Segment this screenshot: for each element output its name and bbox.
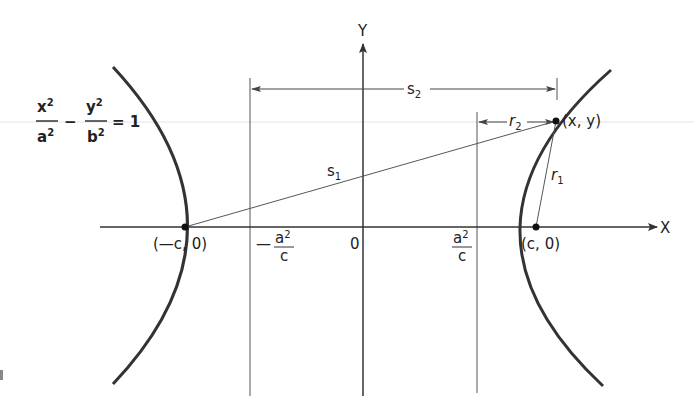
- hyperbola-equation: x2 a2 − y2 b2 = 1: [36, 97, 140, 146]
- y-axis-label: Y: [357, 22, 368, 40]
- r1-label: r1: [551, 166, 564, 186]
- svg-text:−: −: [64, 113, 77, 131]
- svg-text:x2: x2: [37, 97, 54, 116]
- right-focus-label: (c, 0): [521, 235, 560, 253]
- svg-text:a2: a2: [275, 229, 291, 247]
- origin-label: 0: [350, 235, 360, 253]
- curve-point: [553, 118, 560, 125]
- hyperbola-diagram: Y X s2 r2 s1 r1 (—c, 0) (c, 0) (x, y) 0 …: [0, 0, 694, 411]
- svg-text:a2: a2: [37, 127, 54, 146]
- left-directrix-label: — a2 c: [256, 229, 294, 265]
- right-focus-point: [533, 224, 540, 231]
- x-axis-label: X: [660, 219, 670, 237]
- s1-label: s1: [327, 162, 341, 182]
- svg-text:c: c: [280, 247, 288, 265]
- left-focus-label: (—c, 0): [153, 235, 207, 253]
- edge-mark: [0, 370, 3, 380]
- right-directrix-label: a2 c: [452, 229, 472, 265]
- s1-line: [185, 121, 556, 227]
- svg-text:y2: y2: [86, 97, 103, 116]
- curve-point-label: (x, y): [562, 112, 601, 130]
- svg-text:—: —: [256, 235, 271, 253]
- svg-text:= 1: = 1: [112, 113, 140, 131]
- svg-text:a2: a2: [453, 229, 469, 247]
- left-focus-point: [182, 224, 189, 231]
- svg-text:b2: b2: [87, 127, 105, 146]
- svg-text:c: c: [458, 247, 466, 265]
